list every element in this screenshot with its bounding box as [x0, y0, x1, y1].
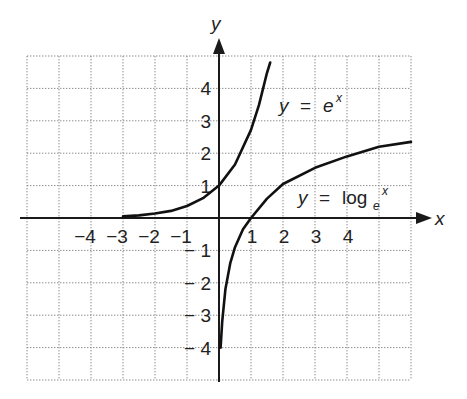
y-tick-label: 2 — [200, 143, 211, 164]
exp-label-lhs: y — [277, 95, 290, 116]
x-tick-label: −3 — [106, 226, 128, 247]
y-axis-arrow-icon — [213, 38, 225, 54]
y-tick-label: 3 — [200, 111, 211, 132]
exp-label-exponent: x — [335, 91, 343, 105]
x-tick-label: −4 — [74, 226, 96, 247]
x-axis-arrow-icon — [416, 212, 432, 224]
x-tick-label: 4 — [343, 226, 354, 247]
exp-curve — [123, 63, 270, 217]
x-axis-label: x — [434, 208, 446, 229]
y-tick-label: − 3 — [184, 305, 211, 326]
log-label-fn: log — [342, 187, 367, 208]
x-tick-label: 2 — [279, 226, 290, 247]
y-tick-label: − 2 — [184, 273, 211, 294]
y-axis-label: y — [209, 13, 222, 34]
x-tick-label: −2 — [138, 226, 160, 247]
x-tick-label: 1 — [247, 226, 258, 247]
exp-curve-label: y = e x — [277, 91, 343, 116]
exp-label-base: e — [323, 95, 334, 116]
function-graph: x y −4−3−2−112344321− 1− 2− 3− 4 y = e x… — [0, 0, 467, 399]
curves — [123, 63, 411, 348]
log-label-argument: x — [381, 184, 389, 198]
log-label-eq: = — [319, 187, 330, 208]
y-tick-label: − 1 — [184, 240, 211, 261]
x-tick-label: 3 — [311, 226, 322, 247]
y-tick-label: − 4 — [184, 338, 211, 359]
exp-label-eq: = — [300, 95, 311, 116]
y-tick-label: 4 — [200, 78, 211, 99]
log-label-base: e — [373, 199, 380, 213]
log-label-lhs: y — [296, 187, 309, 208]
log-curve-label: y = log e x — [296, 184, 389, 213]
